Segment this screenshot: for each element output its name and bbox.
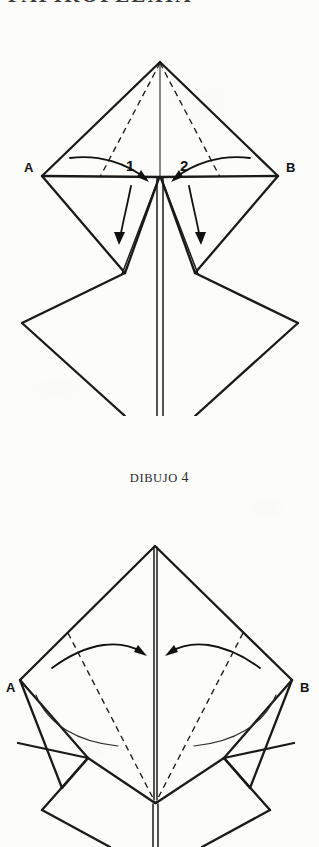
fold-number-1: 1 <box>126 157 134 174</box>
figure-2-canvas: A B <box>0 520 319 847</box>
running-head: PAPIROFLEXIA <box>0 0 319 9</box>
side-panels <box>42 176 278 273</box>
right-diamond-outline <box>156 680 294 803</box>
running-head-text: PAPIROFLEXIA <box>8 0 193 8</box>
vertex-label-a: A <box>24 160 34 175</box>
origami-diagram-step-4: A B 1 2 <box>0 46 319 416</box>
origami-diagram-step-5: A B <box>0 520 319 847</box>
scanned-page: PAPIROFLEXIA <box>0 0 319 847</box>
center-spine-doubled <box>157 178 163 416</box>
figure-caption: DIBUJO 4 <box>0 470 319 486</box>
caption-number: 4 <box>182 470 190 485</box>
inner-flap-edges <box>122 178 198 274</box>
bottom-tail <box>153 804 158 847</box>
figure-1-canvas: A B 1 2 <box>0 46 319 416</box>
fold-arrow-left-2 <box>52 644 147 668</box>
fold-creases-2 <box>68 633 243 802</box>
vertex-label-b: B <box>286 160 295 175</box>
sweep-arc-right <box>194 695 276 746</box>
vertex-label-b-2: B <box>300 680 309 695</box>
fold-number-2: 2 <box>180 157 188 174</box>
vertex-label-a-2: A <box>6 680 16 695</box>
fold-arrow-1 <box>70 157 149 182</box>
left-diamond-outline <box>18 680 155 803</box>
lower-diamond-outline <box>22 273 298 416</box>
fold-arrow-right-2 <box>165 644 260 668</box>
center-spine-2 <box>154 547 157 800</box>
flap-arrow-right <box>189 186 206 245</box>
caption-word: DIBUJO <box>130 471 178 485</box>
flap-arrow-left <box>114 186 131 245</box>
upper-kite-outline-2 <box>20 546 292 680</box>
sweep-arc-left <box>36 695 118 746</box>
